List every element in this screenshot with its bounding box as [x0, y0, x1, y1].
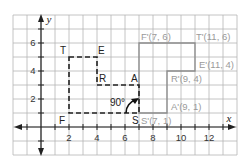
rotation-angle-label: 90°	[110, 97, 125, 108]
vertex-label-R-prime: R'(9, 4)	[171, 73, 202, 84]
vertex-label-A-prime: A'(9, 1)	[171, 101, 201, 112]
vertex-label-F-prime: F'(7, 6)	[141, 31, 171, 42]
x-axis-left-arrow-icon	[14, 124, 22, 130]
x-tick-10: 10	[176, 132, 187, 143]
x-tick-12: 12	[204, 132, 215, 143]
y-axis-label: y	[46, 13, 52, 25]
vertex-label-T: T	[60, 45, 66, 56]
x-tick-6: 6	[122, 132, 127, 143]
x-tick-8: 8	[150, 132, 155, 143]
vertex-label-S: S	[132, 115, 139, 126]
vertex-label-E: E	[98, 45, 105, 56]
vertex-label-T-prime: T'(11, 6)	[196, 31, 230, 42]
x-axis-label: x	[226, 112, 232, 124]
x-tick-4: 4	[94, 132, 99, 143]
vertex-label-E-prime: E'(11, 4)	[199, 59, 234, 70]
vertex-label-F: F	[59, 115, 65, 126]
y-tick-2: 2	[30, 93, 35, 104]
y-tick-6: 6	[30, 37, 35, 48]
vertex-label-A: A	[131, 73, 138, 84]
x-tick-2: 2	[66, 132, 71, 143]
x-axis-right-arrow-icon	[228, 124, 236, 130]
vertex-label-R: R	[99, 73, 106, 84]
coordinate-plane: 2 4 6 8 10 12 2 4 6 x y 90° T E R A S F …	[0, 0, 247, 164]
y-tick-4: 4	[30, 65, 35, 76]
vertex-label-S-prime: S'(7, 1)	[141, 115, 171, 126]
